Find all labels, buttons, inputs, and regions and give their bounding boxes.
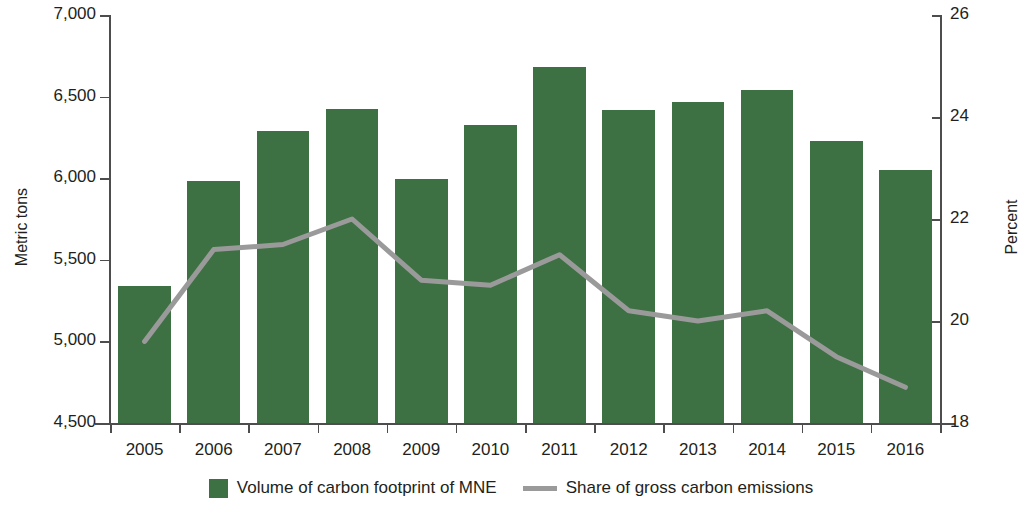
bar-2011 — [533, 67, 586, 423]
y-axis-right-tick-label: 24 — [950, 106, 1010, 126]
y-axis-left-tick-mark — [100, 423, 109, 425]
y-axis-left-tick-label: 4,500 — [26, 412, 96, 432]
bar-2009 — [395, 179, 448, 423]
y-axis-left-tick-mark — [100, 97, 109, 99]
x-axis-tick-label: 2010 — [455, 440, 525, 460]
legend-label-line: Share of gross carbon emissions — [566, 478, 814, 498]
y-axis-right-tick-label: 18 — [950, 412, 1010, 432]
bar-2016 — [879, 170, 932, 423]
bar-2010 — [464, 125, 517, 423]
bar-2008 — [326, 109, 379, 423]
x-axis-tick-mark — [456, 424, 458, 433]
x-axis-tick-label: 2011 — [525, 440, 595, 460]
y-axis-left-tick-label: 5,500 — [26, 249, 96, 269]
legend-line-swatch-icon — [523, 486, 557, 491]
x-axis-tick-mark — [663, 424, 665, 433]
bar-2006 — [187, 181, 240, 423]
legend-item-line: Share of gross carbon emissions — [523, 478, 814, 498]
x-axis-tick-mark — [248, 424, 250, 433]
x-axis-tick-mark — [940, 424, 942, 433]
x-axis-tick-mark — [387, 424, 389, 433]
bar-2007 — [257, 131, 310, 423]
x-axis-tick-mark — [110, 424, 112, 433]
y-axis-left-tick-label: 6,500 — [26, 86, 96, 106]
y-axis-right-tick-label: 20 — [950, 310, 1010, 330]
x-axis-tick-label: 2008 — [317, 440, 387, 460]
bar-2005 — [118, 286, 171, 423]
bar-2013 — [672, 102, 725, 424]
y-axis-left-tick-label: 5,000 — [26, 330, 96, 350]
y-axis-left-tick-label: 7,000 — [26, 4, 96, 24]
x-axis-tick-mark — [525, 424, 527, 433]
y-axis-right-tick-label: 22 — [950, 208, 1010, 228]
x-axis-tick-label: 2006 — [179, 440, 249, 460]
x-axis-tick-label: 2012 — [594, 440, 664, 460]
y-axis-left-tick-mark — [100, 341, 109, 343]
x-axis-tick-mark — [733, 424, 735, 433]
legend-square-swatch-icon — [209, 479, 228, 498]
x-axis-tick-label: 2009 — [386, 440, 456, 460]
x-axis-tick-mark — [802, 424, 804, 433]
plot-area — [110, 15, 940, 423]
bar-2012 — [602, 110, 655, 423]
x-axis-tick-mark — [318, 424, 320, 433]
x-axis-tick-mark — [179, 424, 181, 433]
x-axis-tick-label: 2005 — [110, 440, 180, 460]
x-axis-tick-label: 2015 — [801, 440, 871, 460]
y-axis-left-tick-mark — [100, 260, 109, 262]
x-axis-tick-mark — [594, 424, 596, 433]
x-axis-tick-label: 2013 — [663, 440, 733, 460]
bar-2014 — [741, 90, 794, 423]
y-axis-left-tick-label: 6,000 — [26, 167, 96, 187]
chart-container: Metric tons Percent 4,5005,0005,5006,000… — [0, 0, 1022, 508]
y-axis-left-tick-mark — [100, 15, 109, 17]
bar-2015 — [810, 141, 863, 423]
y-axis-left-tick-mark — [100, 178, 109, 180]
x-axis-tick-mark — [871, 424, 873, 433]
x-axis-tick-label: 2016 — [870, 440, 940, 460]
legend-item-bars: Volume of carbon footprint of MNE — [209, 478, 497, 498]
x-axis-tick-label: 2014 — [732, 440, 802, 460]
x-axis-tick-label: 2007 — [248, 440, 318, 460]
y-axis-right-tick-label: 26 — [950, 4, 1010, 24]
chart-legend: Volume of carbon footprint of MNE Share … — [0, 478, 1022, 498]
legend-label-bars: Volume of carbon footprint of MNE — [237, 478, 497, 498]
